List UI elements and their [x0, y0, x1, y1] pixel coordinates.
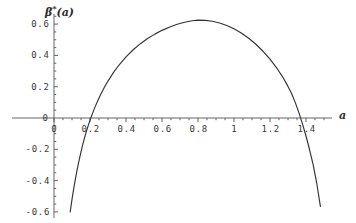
- x-axis-tick-marks: [54, 118, 324, 122]
- y-axis-title-arg: (a): [57, 6, 75, 19]
- x-tick-label: 0.8: [190, 124, 208, 134]
- y-tick-label: 0: [42, 113, 48, 123]
- y-tick-label: 0.2: [31, 82, 49, 92]
- x-tick-label: 0.2: [82, 124, 100, 134]
- y-tick-label: -0.4: [26, 176, 50, 186]
- x-tick-label: 0.4: [118, 124, 136, 134]
- x-tick-label: 1: [231, 124, 237, 134]
- plot-canvas: [0, 0, 356, 223]
- y-axis-title: β*(a): [45, 2, 74, 19]
- x-tick-label: 1.4: [298, 124, 316, 134]
- x-tick-label: 1.2: [262, 124, 280, 134]
- y-tick-label: -0.2: [26, 144, 50, 154]
- x-tick-label: 0.6: [154, 124, 172, 134]
- y-tick-label: -0.6: [26, 207, 50, 217]
- axis-group: [12, 14, 332, 218]
- y-tick-label: 0.4: [31, 50, 49, 60]
- y-tick-label: 0.6: [31, 19, 49, 29]
- y-axis-tick-marks: [54, 16, 58, 212]
- x-axis-title: a: [339, 110, 346, 122]
- plot-figure: 00.20.40.60.811.21.4 0.60.40.20-0.2-0.4-…: [0, 0, 356, 223]
- x-tick-label: 0: [51, 124, 57, 134]
- beta-star-curve: [70, 20, 320, 212]
